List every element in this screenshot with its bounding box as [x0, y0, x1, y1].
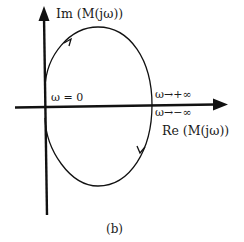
plus-infinity-label: ω→+∞ [155, 88, 192, 101]
real-axis-label: Re (M(jω)) [162, 123, 229, 138]
imaginary-axis-label: Im (M(jω)) [56, 6, 123, 21]
figure-caption: (b) [106, 222, 123, 236]
nyquist-diagram [0, 0, 244, 242]
real-axis-arrow-icon [213, 99, 228, 111]
imaginary-axis-arrow-icon [39, 6, 50, 21]
origin-label: ω = 0 [51, 91, 83, 104]
upper-direction-arrow-icon [64, 39, 71, 46]
imaginary-axis [44, 16, 47, 215]
minus-infinity-label: ω→−∞ [155, 106, 192, 119]
